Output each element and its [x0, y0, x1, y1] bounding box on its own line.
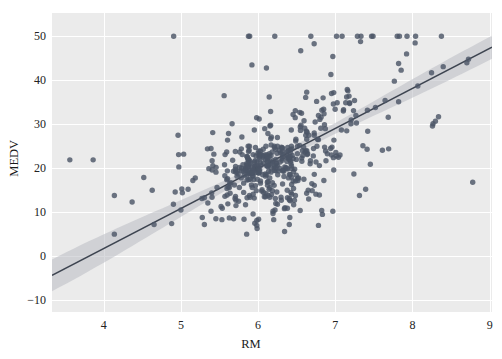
scatter-point — [320, 212, 325, 217]
y-tick-label: 40 — [34, 74, 46, 86]
scatter-point — [270, 180, 275, 185]
scatter-point — [112, 231, 117, 236]
scatter-point — [210, 130, 215, 135]
scatter-point — [358, 34, 363, 39]
scatter-point — [358, 39, 363, 44]
scatter-point — [430, 123, 435, 128]
scatter-point — [248, 160, 253, 165]
scatter-point — [298, 128, 303, 133]
scatter-point — [284, 166, 289, 171]
scatter-point — [256, 116, 261, 121]
scatter-point — [265, 180, 270, 185]
scatter-point — [293, 193, 298, 198]
scatter-point — [339, 34, 344, 39]
x-axis-title-text: RM — [241, 338, 260, 351]
scatter-point — [268, 136, 273, 141]
scatter-point — [176, 152, 181, 157]
scatter-point — [412, 40, 417, 45]
scatter-point — [286, 154, 291, 159]
scatter-point — [323, 148, 328, 153]
scatter-point — [353, 113, 358, 118]
scatter-point — [279, 198, 284, 203]
scatter-point — [339, 127, 344, 132]
scatter-point — [250, 211, 255, 216]
scatter-point — [360, 143, 365, 148]
scatter-point — [323, 126, 328, 131]
scatter-point — [352, 98, 357, 103]
scatter-point — [281, 174, 286, 179]
scatter-point — [398, 67, 403, 72]
scatter-point — [262, 126, 267, 131]
scatter-point — [343, 100, 348, 105]
scatter-point — [312, 183, 317, 188]
x-tick-label: 9 — [487, 319, 493, 331]
scatter-point — [150, 188, 155, 193]
scatter-point — [264, 163, 269, 168]
scatter-point — [260, 172, 265, 177]
scatter-point — [464, 60, 469, 65]
scatter-point — [219, 217, 224, 222]
scatter-point — [415, 83, 420, 88]
plot-area — [52, 13, 492, 312]
scatter-point — [209, 158, 214, 163]
scatter-point — [241, 190, 246, 195]
scatter-point — [151, 222, 156, 227]
scatter-point — [246, 34, 251, 39]
scatter-point — [354, 120, 359, 125]
scatter-point — [312, 172, 317, 177]
scatter-point — [185, 187, 190, 192]
scatter-point — [300, 153, 305, 158]
scatter-point — [279, 158, 284, 163]
scatter-point — [317, 117, 322, 122]
scatter-point — [470, 180, 475, 185]
x-axis-title: RM — [0, 338, 502, 351]
scatter-point — [221, 93, 226, 98]
scatter-point — [279, 145, 284, 150]
scatter-point — [171, 202, 176, 207]
figure-canvas: 50403020100−10 456789 RM MEDV — [0, 0, 502, 359]
scatter-point — [224, 149, 229, 154]
scatter-point — [200, 215, 205, 220]
scatter-point — [175, 133, 180, 138]
scatter-point — [346, 93, 351, 98]
scatter-point — [202, 195, 207, 200]
scatter-point — [250, 170, 255, 175]
scatter-point — [249, 182, 254, 187]
scatter-point — [178, 207, 183, 212]
y-tick-label: 10 — [34, 206, 46, 218]
scatter-point — [169, 221, 174, 226]
scatter-point — [330, 54, 335, 59]
scatter-point — [316, 223, 321, 228]
scatter-point — [311, 146, 316, 151]
scatter-point — [244, 173, 249, 178]
scatter-point — [288, 161, 293, 166]
scatter-point — [252, 127, 257, 132]
scatter-point — [244, 231, 249, 236]
scatter-point — [264, 154, 269, 159]
y-tick-label: 50 — [34, 30, 46, 42]
scatter-point — [312, 133, 317, 138]
scatter-point — [351, 108, 356, 113]
scatter-point — [275, 144, 280, 149]
scatter-point — [272, 34, 277, 39]
scatter-point — [441, 64, 446, 69]
scatter-point — [429, 70, 434, 75]
scatter-point — [227, 215, 232, 220]
scatter-point — [321, 178, 326, 183]
scatter-point — [90, 157, 95, 162]
scatter-point — [254, 218, 259, 223]
scatter-point — [259, 187, 264, 192]
scatter-point — [314, 99, 319, 104]
scatter-point — [224, 186, 229, 191]
scatter-point — [382, 98, 387, 103]
scatter-point — [181, 151, 186, 156]
scatter-point — [233, 194, 238, 199]
scatter-point — [225, 201, 230, 206]
scatter-point — [282, 206, 287, 211]
scatter-point — [365, 129, 370, 134]
scatter-point — [330, 209, 335, 214]
scatter-point — [268, 109, 273, 114]
scatter-point — [344, 128, 349, 133]
scatter-point — [213, 216, 218, 221]
scatter-point — [257, 167, 262, 172]
